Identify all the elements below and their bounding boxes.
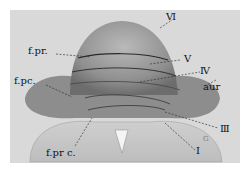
label-VI: Ⅵ bbox=[166, 12, 176, 22]
label-IV: Ⅳ bbox=[200, 66, 210, 76]
label-small-mark: G bbox=[203, 136, 209, 143]
label-I: I bbox=[196, 146, 200, 156]
label-f-pr: f.pr. bbox=[28, 46, 48, 56]
label-aur: aur bbox=[203, 82, 220, 92]
label-f-pr-c: f.pr c. bbox=[46, 148, 76, 158]
label-III: Ⅲ bbox=[220, 124, 230, 134]
label-V: Ⅴ bbox=[184, 54, 191, 64]
label-f-pc: f.pc. bbox=[14, 76, 36, 86]
